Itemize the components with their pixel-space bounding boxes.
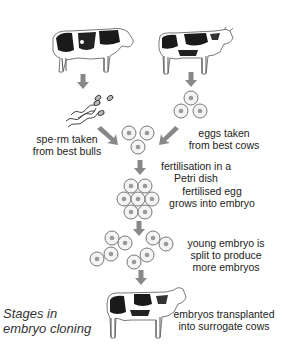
arrow-down-icon [77, 74, 89, 89]
sperm-illustration [66, 94, 114, 127]
arrow-down-icon [185, 72, 197, 87]
arrow-down-icon [135, 270, 147, 285]
bull-illustration [53, 28, 133, 72]
fertilisation-cells [122, 126, 154, 154]
step-label-sperm: spe·rm taken from best bulls [30, 133, 104, 157]
cow-illustration [159, 27, 233, 74]
step-label-transplant: embryos transplanted into surrogate cows [168, 308, 280, 332]
arrow-diagonal-left-icon [159, 126, 179, 145]
step-label-split: young embryo is split to produce more em… [184, 237, 268, 273]
arrow-down-icon [133, 221, 145, 236]
embryo-cloning-diagram [0, 0, 286, 346]
embryo-cluster [117, 179, 159, 219]
egg-cells [174, 91, 207, 118]
split-embryos [90, 231, 173, 269]
step-label-eggs: eggs taken from best cows [186, 127, 262, 151]
step-label-embryo: fertilised egg grows into embryo [168, 185, 256, 209]
step-label-fertilisation: fertilisation in a Petri dish [154, 160, 238, 184]
diagram-caption: Stages in embryo cloning [3, 306, 91, 336]
arrow-down-icon [134, 160, 146, 175]
